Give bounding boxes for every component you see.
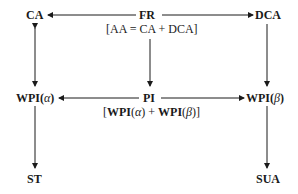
node-ca: CA <box>26 8 43 22</box>
pi-annotation: [WPI(α) + WPI(β)] <box>103 105 200 119</box>
node-dca: DCA <box>255 8 281 22</box>
node-sua: SUA <box>256 172 280 186</box>
fr-annotation: [AA = CA + DCA] <box>106 22 198 36</box>
node-fr: FR <box>139 8 155 22</box>
node-pi: PI <box>143 91 155 105</box>
node-wpi-beta: WPI(β) <box>246 91 284 105</box>
node-wpi-alpha: WPI(α) <box>16 91 54 105</box>
node-st: ST <box>27 172 42 186</box>
